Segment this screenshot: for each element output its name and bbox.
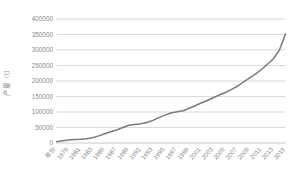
x-axis-tick-label: 1993 (139, 145, 154, 160)
x-axis-tick-label: 1999 (176, 145, 191, 160)
x-axis-tick-label: 1983 (79, 145, 94, 160)
x-axis-tick-labels: 年份19791981198319851987198919911993199519… (43, 145, 286, 161)
x-axis-tick-label: 2013 (260, 145, 275, 160)
x-axis-tick-label: 1979 (55, 145, 70, 160)
x-axis-tick-label: 1985 (91, 145, 106, 160)
y-axis-tick-label: 100000 (32, 108, 54, 115)
x-axis-tick-label: 1995 (152, 145, 167, 160)
y-axis-tick-label: 150000 (32, 93, 54, 100)
y-axis-tick-labels: 0500001000001500002000002500003000003500… (32, 15, 54, 146)
y-axis-title: 产量（t） (2, 66, 11, 96)
x-axis-tick-label: 1987 (103, 145, 118, 160)
x-axis-tick-label: 2001 (188, 145, 203, 160)
y-axis-tick-label: 200000 (32, 77, 54, 84)
x-axis-tick-label: 2007 (224, 145, 239, 160)
x-axis-tick-label: 1981 (67, 145, 82, 160)
x-axis-tick-label: 2005 (212, 145, 227, 160)
y-axis-tick-label: 250000 (32, 62, 54, 69)
line-chart: 0500001000001500002000002500003000003500… (0, 0, 302, 177)
x-axis-tick-label: 2009 (236, 145, 251, 160)
y-axis-tick-label: 50000 (35, 124, 53, 131)
y-axis-tick-label: 400000 (32, 15, 54, 22)
y-axis-tick-label: 300000 (32, 46, 54, 53)
x-axis-tick-label: 1991 (127, 145, 142, 160)
chart-container: 0500001000001500002000002500003000003500… (0, 0, 302, 177)
x-axis-tick-label: 1997 (164, 145, 179, 160)
gridlines (57, 19, 286, 143)
x-axis-tick-label: 1989 (115, 145, 130, 160)
x-axis-tick-label: 2003 (200, 145, 215, 160)
x-axis-tick-label: 2015 (272, 145, 287, 160)
x-axis-tick-label: 2011 (248, 145, 262, 160)
y-axis-tick-label: 350000 (32, 31, 54, 38)
